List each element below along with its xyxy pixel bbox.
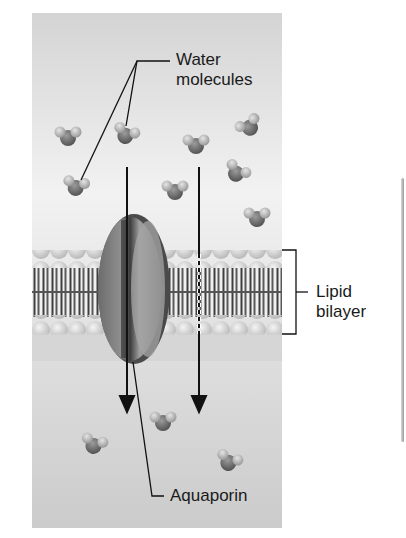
diagram-figure: Water molecules Lipid bilayer Aquaporin xyxy=(0,0,406,538)
page-edge-line xyxy=(401,178,404,442)
water-molecules-label: Water molecules xyxy=(176,50,253,90)
aquaporin-channel xyxy=(98,214,170,364)
lipid-bilayer-label: Lipid bilayer xyxy=(316,282,366,322)
aquaporin-label: Aquaporin xyxy=(170,486,248,506)
lipid-bilayer-bracket xyxy=(282,250,296,334)
